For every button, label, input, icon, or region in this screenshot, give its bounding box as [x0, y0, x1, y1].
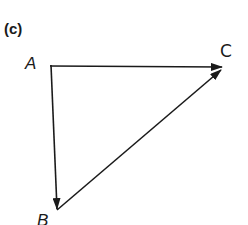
- vector-ac-arrow: [50, 66, 222, 67]
- vector-bc-arrow: [57, 70, 221, 210]
- vector-lines: [0, 0, 248, 225]
- vector-ab-arrow: [51, 65, 57, 209]
